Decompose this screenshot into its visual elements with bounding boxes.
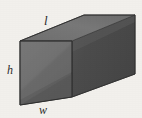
rectangular-prism-svg bbox=[0, 0, 142, 118]
figure-container: l h w bbox=[0, 0, 142, 118]
dimension-label-width: w bbox=[39, 104, 47, 116]
dimension-label-height: h bbox=[7, 64, 13, 76]
dimension-label-length: l bbox=[44, 14, 48, 27]
